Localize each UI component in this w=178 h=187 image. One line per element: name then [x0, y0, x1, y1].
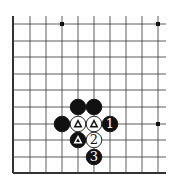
go-board: 123: [0, 0, 178, 187]
white-stone-disc: [70, 116, 86, 132]
black-stone: [54, 116, 70, 132]
black-stone: 1: [102, 116, 118, 132]
white-stone: 2: [86, 132, 102, 148]
star-point: [156, 122, 160, 126]
white-stone: [86, 116, 102, 132]
move-number: 1: [106, 116, 114, 131]
black-stone: 3: [86, 149, 102, 165]
black-stone-disc: [70, 132, 86, 148]
black-stone: [70, 132, 86, 148]
white-stone: [70, 116, 86, 132]
stones: 123: [54, 99, 118, 165]
white-stone-disc: [86, 116, 102, 132]
black-stone-disc: [54, 116, 70, 132]
star-point: [60, 22, 64, 26]
black-stone: [86, 99, 102, 115]
move-number: 3: [90, 149, 98, 164]
black-stone-disc: [86, 99, 102, 115]
star-point: [156, 22, 160, 26]
black-stone-disc: [70, 99, 86, 115]
move-number: 2: [90, 132, 98, 147]
black-stone: [70, 99, 86, 115]
